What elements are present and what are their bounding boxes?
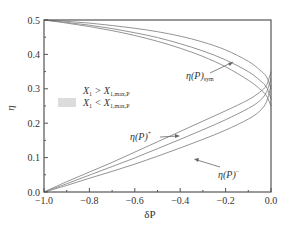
- x-tick-label: −0.2: [217, 195, 235, 206]
- annotation-eta-plus: η(P)+: [130, 130, 180, 143]
- series-line-upper-1: [44, 20, 271, 89]
- legend-swatch-2: [58, 98, 76, 107]
- legend-swatch-1: [58, 86, 76, 95]
- y-axis-label: η: [4, 105, 16, 110]
- series-line-lower-2: [44, 78, 271, 192]
- annotation-eta-sym: η(P)sym: [186, 62, 233, 82]
- legend-label-1: X1 > X1,max,P: [82, 85, 130, 97]
- legend-label-2: X1 < X1,max,P: [82, 97, 130, 109]
- x-tick-label: −0.6: [126, 195, 144, 206]
- y-tick-label: 0.1: [28, 152, 41, 163]
- annotation-eta-minus: η(P)−: [194, 158, 240, 181]
- plot-lines: [44, 20, 271, 192]
- svg-text:η(P)−: η(P)−: [218, 168, 240, 181]
- series-line-lower-3: [44, 85, 271, 192]
- x-tick-label: −0.8: [80, 195, 98, 206]
- y-tick-label: 0.3: [28, 83, 41, 94]
- svg-text:η(P)sym: η(P)sym: [186, 70, 214, 82]
- x-axis-ticks: −1.0−0.8−0.6−0.4−0.20.0: [35, 188, 277, 206]
- y-axis-ticks: 0.00.10.20.30.40.5: [28, 15, 49, 198]
- line-chart: −1.0−0.8−0.6−0.4−0.20.0 0.00.10.20.30.40…: [0, 0, 289, 229]
- x-tick-label: −0.4: [171, 195, 189, 206]
- plot-frame: [44, 20, 271, 192]
- y-tick-label: 0.0: [28, 187, 41, 198]
- x-axis-label: δP: [144, 208, 155, 220]
- y-tick-label: 0.2: [28, 118, 41, 129]
- legend: X1 > X1,max,P X1 < X1,max,P: [58, 85, 130, 109]
- x-tick-label: 0.0: [265, 195, 278, 206]
- svg-text:η(P)+: η(P)+: [130, 130, 152, 143]
- y-tick-label: 0.4: [28, 49, 41, 60]
- series-line-upper-3: [44, 20, 271, 106]
- y-tick-label: 0.5: [28, 15, 41, 26]
